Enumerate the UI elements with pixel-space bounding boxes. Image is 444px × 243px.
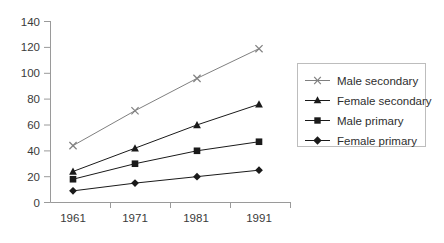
y-tick-label-0: 0 <box>34 197 40 209</box>
data-point-2-2 <box>194 147 201 154</box>
y-tick-label-60: 60 <box>27 119 40 131</box>
legend-label-male-primary: Male primary <box>337 115 404 127</box>
y-tick-label-40: 40 <box>27 145 40 157</box>
legend-label-male-secondary: Male secondary <box>337 75 418 87</box>
x-tick-label-1991: 1991 <box>246 212 272 224</box>
data-point-2-1 <box>132 160 139 167</box>
legend-label-female-secondary: Female secondary <box>337 95 432 107</box>
x-tick-label-1971: 1971 <box>122 212 148 224</box>
y-tick-label-120: 120 <box>21 41 40 53</box>
data-point-2-0 <box>70 176 77 183</box>
data-point-2-3 <box>256 138 263 145</box>
chart-legend: Male secondary Female secondary Male pri… <box>298 64 432 148</box>
y-tick-label-140: 140 <box>21 16 40 28</box>
x-tick-label-1981: 1981 <box>183 212 209 224</box>
line-chart-figure: 140 120 100 80 60 40 20 0 1961 1971 1981… <box>0 0 444 243</box>
y-tick-label-100: 100 <box>21 67 40 79</box>
square-icon <box>314 117 320 123</box>
legend-label-female-primary: Female primary <box>337 135 417 147</box>
y-tick-label-80: 80 <box>27 93 40 105</box>
x-tick-label-1961: 1961 <box>60 212 86 224</box>
y-tick-label-20: 20 <box>27 171 40 183</box>
